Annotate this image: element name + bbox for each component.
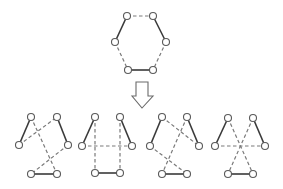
bottom-graph-2 [79,114,136,177]
graph-node [117,170,124,177]
graph-node [150,67,157,74]
graph-node [65,142,72,149]
graph-node [124,13,131,20]
solid-edge [150,117,162,146]
graph-node [28,114,35,121]
bottom-graph-4 [212,115,269,178]
graph-node [262,143,269,150]
dashed-edge [31,145,68,174]
graph-node [79,143,86,150]
solid-edge [82,117,95,146]
graph-node [225,115,232,122]
graph-node [212,143,219,150]
dashed-edge [162,117,187,174]
dashed-edge [150,146,187,174]
graph-node [92,170,99,177]
graph-node [159,114,166,121]
dashed-edge [115,42,128,70]
graph-diagram [0,0,283,189]
top-hexagon-graph [112,13,170,74]
solid-edge [120,117,132,146]
solid-edge [253,118,265,146]
dashed-edge [153,42,166,70]
graph-node [150,13,157,20]
graph-node [28,171,35,178]
bottom-graph-1 [16,114,72,178]
graph-node [250,115,257,122]
solid-edge [215,118,228,146]
solid-edge [153,16,166,42]
graph-node [184,114,191,121]
solid-edge [115,16,127,42]
graph-node [196,143,203,150]
graph-node [159,171,166,178]
solid-edge [187,117,199,146]
graph-node [125,67,132,74]
solid-edge [57,117,68,145]
graph-node [163,39,170,46]
graph-node [147,143,154,150]
graph-node [92,114,99,121]
graph-node [112,39,119,46]
bottom-graph-3 [147,114,203,178]
graph-node [225,171,232,178]
dashed-edge [31,117,57,174]
graph-node [54,171,61,178]
graph-node [54,114,61,121]
graph-node [250,171,257,178]
graph-node [129,143,136,150]
graph-node [16,142,23,149]
down-arrow-icon [132,82,153,108]
graph-node [184,171,191,178]
graph-node [117,114,124,121]
